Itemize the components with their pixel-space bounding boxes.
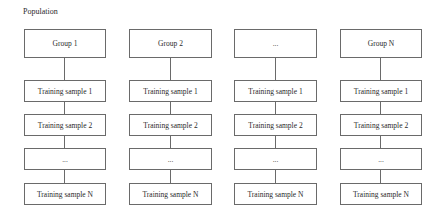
connector-line <box>380 136 381 148</box>
connector-line <box>380 170 381 183</box>
group-box: Group 2 <box>129 29 212 58</box>
sample-box-ellipsis: ... <box>24 148 106 170</box>
connector-line <box>380 58 381 80</box>
connector-line <box>380 102 381 114</box>
sample-box: Training sample 2 <box>129 114 212 136</box>
sample-box: Training sample N <box>129 183 212 205</box>
sample-box: Training sample 2 <box>24 114 106 136</box>
connector-line <box>170 170 171 183</box>
connector-line <box>170 58 171 80</box>
group-box: Group 1 <box>24 29 106 58</box>
connector-line <box>275 102 276 114</box>
connector-line <box>170 102 171 114</box>
connector-line <box>275 58 276 80</box>
sample-box: Training sample N <box>24 183 106 205</box>
sample-box: Training sample 2 <box>340 114 422 136</box>
sample-box: Training sample N <box>340 183 422 205</box>
sample-box-ellipsis: ... <box>129 148 212 170</box>
sample-box-ellipsis: ... <box>340 148 422 170</box>
sample-box: Training sample 1 <box>234 80 317 102</box>
sample-box: Training sample 2 <box>234 114 317 136</box>
connector-line <box>170 136 171 148</box>
connector-line <box>64 136 65 148</box>
connector-line <box>275 170 276 183</box>
group-box: ... <box>234 29 317 58</box>
group-box: Group N <box>340 29 422 58</box>
connector-line <box>64 58 65 80</box>
connector-line <box>64 102 65 114</box>
sample-box: Training sample 1 <box>24 80 106 102</box>
connector-line <box>64 170 65 183</box>
sample-box: Training sample 1 <box>340 80 422 102</box>
connector-line <box>275 136 276 148</box>
diagram-title: Population <box>23 7 58 17</box>
sample-box: Training sample 1 <box>129 80 212 102</box>
sample-box-ellipsis: ... <box>234 148 317 170</box>
sample-box: Training sample N <box>234 183 317 205</box>
